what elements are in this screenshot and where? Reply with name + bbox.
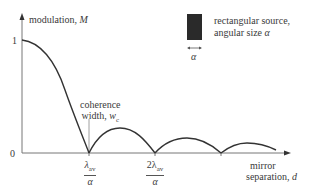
annotation-var: w (109, 110, 116, 121)
dimension-arrow-left-icon (187, 47, 190, 50)
x-tick-label-2: 2λav α (142, 159, 168, 188)
tick2-sub: av (157, 165, 164, 173)
curve-lobe-3 (155, 138, 221, 153)
curve-main-lobe (22, 40, 89, 153)
annotation-line2: width, (81, 110, 109, 121)
source-label-line1: rectangular source, (214, 15, 290, 27)
y-axis-arrow-icon (20, 13, 25, 20)
tick2-den: α (142, 176, 168, 188)
y-axis-label: modulation, M (29, 14, 88, 25)
x-axis-label: mirror separation, d (246, 160, 297, 182)
source-label-line2: angular size (214, 27, 265, 38)
coherence-width-annotation: coherence width, wc (80, 99, 121, 126)
annotation-var-sub: c (116, 116, 119, 124)
x-axis-label-var: d (292, 171, 297, 182)
x-axis-arrow-icon (284, 151, 291, 156)
annotation-line1: coherence (80, 99, 121, 110)
curve-lobe-4 (221, 143, 276, 153)
y-axis-label-text: modulation, (29, 14, 80, 25)
tick2-num: 2λ (147, 159, 157, 170)
tick1-sub: av (89, 165, 96, 173)
curve-lobe-2 (89, 128, 155, 153)
y-tick-1: 1 (12, 35, 17, 46)
y-axis-label-var: M (80, 14, 88, 25)
rectangular-source-icon (187, 14, 202, 40)
tick1-den: α (79, 176, 101, 188)
x-axis-label-line2: separation, (246, 171, 292, 182)
y-tick-0: 0 (10, 148, 15, 159)
source-dimension-label: α (191, 51, 196, 62)
source-label: rectangular source, angular size α (214, 15, 290, 39)
dimension-arrow-right-icon (199, 47, 202, 50)
x-axis-label-line1: mirror (246, 160, 297, 171)
source-label-var: α (265, 27, 270, 38)
x-tick-label-1: λav α (79, 159, 101, 188)
